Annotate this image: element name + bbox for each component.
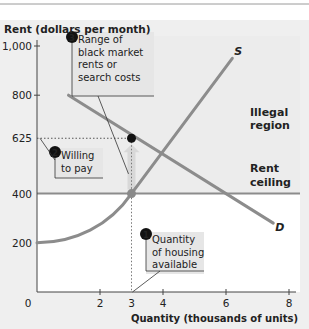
x-tick-label: 0 xyxy=(25,297,32,309)
callout-1-text: Quantity xyxy=(152,234,195,245)
callout-2-text: to pay xyxy=(61,163,93,174)
x-tick-label: 2 xyxy=(97,297,104,309)
illegal-region-label: region xyxy=(250,119,290,132)
x-tick-label: 3 xyxy=(128,297,135,309)
rent-ceiling-label: ceiling xyxy=(250,176,291,189)
black-market-price-point xyxy=(127,134,136,143)
callout-3-text: search costs xyxy=(78,72,140,83)
rent-ceiling-label: Rent xyxy=(250,162,279,175)
y-axis-title: Rent (dollars per month) xyxy=(4,23,151,35)
callout-2-text: Willing xyxy=(61,150,94,161)
x-axis-title: Quantity (thousands of units) xyxy=(131,313,298,324)
callout-3-text: rents or xyxy=(78,59,118,70)
rent-ceiling-chart: 2004006258001,000023468SDIllegalregionRe… xyxy=(0,0,309,329)
callout-3-text: black market xyxy=(78,47,143,58)
demand-label: D xyxy=(275,221,284,234)
x-tick-label: 4 xyxy=(160,297,167,309)
y-tick-label: 1,000 xyxy=(2,40,32,52)
x-tick-label: 8 xyxy=(286,297,293,309)
y-tick-label: 625 xyxy=(12,132,32,144)
supply-label: S xyxy=(234,45,242,58)
y-tick-label: 800 xyxy=(12,89,32,101)
ceiling-supply-point xyxy=(127,189,136,198)
y-tick-label: 400 xyxy=(12,188,32,200)
callout-3-text: Range of xyxy=(78,34,123,45)
callout-2-number: 2 xyxy=(52,148,58,158)
callout-1-number: 1 xyxy=(143,230,149,240)
callout-1-text: available xyxy=(152,259,197,270)
illegal-region-label: Illegal xyxy=(250,106,288,119)
x-tick-label: 6 xyxy=(223,297,230,309)
y-tick-label: 200 xyxy=(12,237,32,249)
callout-1-text: of housing xyxy=(152,247,204,258)
